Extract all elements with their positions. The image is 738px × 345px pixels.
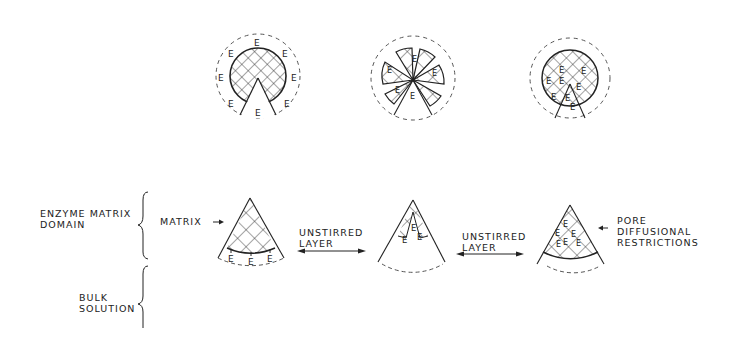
svg-text:E: E bbox=[254, 38, 260, 48]
svg-text:E: E bbox=[563, 220, 568, 229]
svg-text:E: E bbox=[559, 76, 564, 86]
svg-text:E: E bbox=[255, 108, 261, 118]
svg-text:E: E bbox=[551, 92, 556, 102]
label-enzyme-matrix-domain-line2: DOMAIN bbox=[40, 219, 85, 230]
label-pore-line2: DIFFUSIONAL bbox=[617, 226, 691, 237]
label-pore-line3: RESTRICTIONS bbox=[617, 237, 699, 248]
cone-segmented-matrix: E E E bbox=[378, 198, 445, 272]
label-unstirred-layer-1-line2: LAYER bbox=[299, 238, 334, 249]
label-unstirred-layer-2-line1: UNSTIRRED bbox=[462, 231, 526, 242]
label-unstirred-layer-1-line1: UNSTIRRED bbox=[299, 227, 363, 238]
svg-text:E: E bbox=[402, 235, 407, 245]
svg-text:E: E bbox=[581, 66, 586, 76]
svg-text:E: E bbox=[395, 86, 400, 95]
enzyme-matrix-diagram: E E E E E E E E E E E E E bbox=[0, 0, 738, 345]
svg-text:E: E bbox=[267, 254, 273, 264]
label-enzyme-matrix-domain-line1: ENZYME MATRIX bbox=[40, 208, 131, 219]
circle-entrapped: E E E E E E E E bbox=[530, 38, 610, 118]
circle-surface-bound: E E E E E E E E bbox=[216, 34, 300, 118]
svg-text:E: E bbox=[571, 230, 576, 239]
pore-arrow bbox=[598, 226, 608, 231]
svg-text:E: E bbox=[284, 99, 290, 109]
label-unstirred-layer-2-line2: LAYER bbox=[462, 242, 497, 253]
label-matrix: MATRIX bbox=[160, 216, 202, 227]
label-bulk-solution-line2: SOLUTION bbox=[79, 303, 135, 314]
svg-text:E: E bbox=[432, 69, 437, 78]
label-pore-line1: PORE bbox=[617, 215, 647, 226]
svg-text:E: E bbox=[248, 257, 254, 267]
svg-text:E: E bbox=[410, 92, 415, 101]
svg-text:E: E bbox=[570, 102, 575, 112]
svg-text:E: E bbox=[228, 49, 234, 59]
svg-text:E: E bbox=[417, 232, 422, 242]
cone-entrapped: E E E E E E bbox=[537, 203, 604, 273]
svg-text:E: E bbox=[546, 76, 551, 86]
svg-text:E: E bbox=[412, 55, 417, 64]
cone-surface-bound: E E E bbox=[215, 195, 290, 267]
brace-enzyme-matrix-domain bbox=[138, 192, 148, 259]
svg-text:E: E bbox=[576, 82, 581, 92]
svg-text:E: E bbox=[563, 238, 568, 247]
matrix-arrow bbox=[213, 220, 224, 225]
svg-text:E: E bbox=[228, 254, 234, 264]
svg-text:E: E bbox=[218, 73, 224, 83]
brace-bulk-solution bbox=[138, 266, 148, 328]
svg-text:E: E bbox=[291, 73, 297, 83]
svg-text:E: E bbox=[559, 65, 564, 75]
svg-text:E: E bbox=[576, 239, 581, 248]
circle-segmented-matrix: E E E E E bbox=[371, 36, 455, 120]
svg-text:E: E bbox=[556, 240, 561, 249]
label-bulk-solution-line1: BULK bbox=[79, 292, 108, 303]
svg-text:E: E bbox=[411, 223, 416, 233]
svg-text:E: E bbox=[228, 99, 234, 109]
unstirred-layer-arrow-1 bbox=[297, 249, 366, 254]
svg-text:E: E bbox=[282, 49, 288, 59]
svg-text:E: E bbox=[555, 229, 560, 238]
svg-text:E: E bbox=[387, 66, 392, 75]
